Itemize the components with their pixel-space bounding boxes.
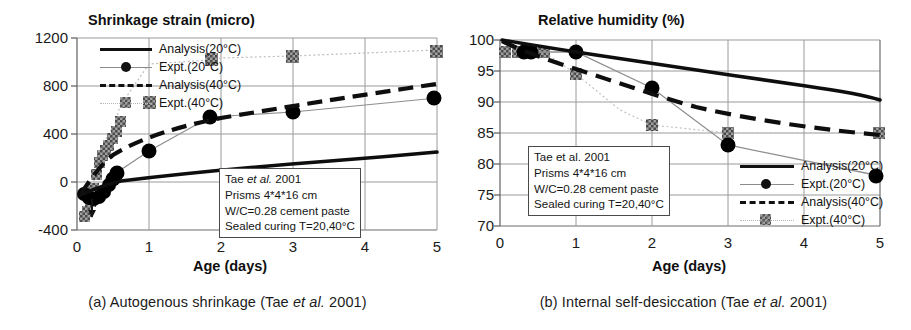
legend-item-analysis-40c: Analysis(40°C) [98, 76, 241, 94]
info-line-prisms: Prisms 4*4*16 cm [225, 187, 355, 203]
legend-item-expt-40c: Expt.(40°C) [738, 211, 883, 229]
info-line-curing: Sealed curing T=20,40°C [534, 196, 664, 212]
chart-a-caption: (a) Autogenous shrinkage (Tae et al. 200… [0, 294, 455, 310]
legend-key-solid-line-icon [98, 41, 154, 57]
legend-item-expt-20c: Expt.(20°C) [98, 58, 241, 76]
legend-key-dashed-line-icon [98, 77, 154, 93]
chart-b-xtick-4: 4 [784, 234, 824, 251]
legend-key-solid-line-icon [738, 158, 796, 174]
chart-b-xtick-5: 5 [860, 234, 900, 251]
chart-a-x-axis-title: Age (days) [193, 258, 267, 274]
chart-a-info-box: Tae et al. 2001 Prisms 4*4*16 cm W/C=0.2… [219, 168, 361, 238]
chart-a-y-axis-title: Shrinkage strain (micro) [88, 12, 255, 28]
legend-key-dashed-line-icon [738, 194, 796, 210]
legend-key-circle-marker-icon [98, 59, 154, 75]
info-line-reference: Tae et al. 2001 [225, 171, 355, 187]
legend-key-circle-marker-icon [738, 176, 796, 192]
panel-autogenous-shrinkage: Shrinkage strain (micro) Age (days) 1200… [0, 0, 455, 330]
chart-b-legend: Analysis(20°C) Expt.(20°C) Analysis(40°C… [738, 157, 883, 229]
legend-key-hatched-square-icon [98, 95, 154, 111]
info-line-curing: Sealed curing T=20,40°C [225, 218, 355, 234]
chart-b-ytick-80: 80 [452, 155, 494, 172]
chart-b-caption: (b) Internal self-desiccation (Tae et al… [456, 294, 911, 310]
chart-a-ytick-400: 400 [8, 125, 68, 142]
info-line-prisms: Prisms 4*4*16 cm [534, 165, 664, 181]
chart-b-info-box: Tae et al. 2001 Prisms 4*4*16 cm W/C=0.2… [528, 146, 670, 216]
legend-label-expt-40c: Expt.(40°C) [801, 214, 865, 227]
series-expt-40c-b [499, 46, 885, 139]
info-line-wc-ratio: W/C=0.28 cement paste [225, 203, 355, 219]
chart-b-ytick-95: 95 [452, 62, 494, 79]
chart-a-xtick-0: 0 [57, 238, 97, 255]
figure-container: Shrinkage strain (micro) Age (days) 1200… [0, 0, 911, 330]
legend-label-expt-20c: Expt.(20°C) [801, 178, 865, 191]
chart-a-ytick-0: 0 [8, 173, 68, 190]
chart-b-xtick-2: 2 [632, 234, 672, 251]
chart-b-xtick-1: 1 [556, 234, 596, 251]
legend-label-analysis-40c: Analysis(40°C) [801, 196, 883, 209]
chart-b-ytick-85: 85 [452, 124, 494, 141]
chart-b-y-axis-title: Relative humidity (%) [538, 12, 685, 28]
chart-a-ytick-1200: 1200 [8, 29, 68, 46]
legend-label-analysis-40c: Analysis(40°C) [159, 79, 241, 92]
legend-label-expt-40c: Expt.(40°C) [159, 97, 223, 110]
chart-a-ytick-800: 800 [8, 77, 68, 94]
series-analysis-20c-b [502, 40, 880, 100]
chart-b-ytick-75: 75 [452, 186, 494, 203]
legend-item-analysis-40c: Analysis(40°C) [738, 193, 883, 211]
chart-b-ytick-70: 70 [452, 217, 494, 234]
chart-a-xtick-4: 4 [345, 238, 385, 255]
panel-internal-self-desiccation: Relative humidity (%) Age (days) 100 95 … [456, 0, 911, 330]
legend-label-analysis-20c: Analysis(20°C) [801, 160, 883, 173]
info-line-reference: Tae et al. 2001 [534, 149, 664, 165]
legend-item-expt-20c: Expt.(20°C) [738, 175, 883, 193]
legend-label-analysis-20c: Analysis(20°C) [159, 43, 241, 56]
legend-key-hatched-square-icon [738, 212, 796, 228]
chart-b-ytick-100: 100 [452, 31, 494, 48]
chart-a-xtick-3: 3 [273, 238, 313, 255]
chart-a-legend: Analysis(20°C) Expt.(20°C) Analysis(40°C… [98, 40, 241, 112]
chart-b-plot [456, 0, 911, 290]
legend-item-analysis-20c: Analysis(20°C) [98, 40, 241, 58]
chart-a-xtick-2: 2 [201, 238, 241, 255]
chart-a-xtick-1: 1 [129, 238, 169, 255]
chart-a-xtick-5: 5 [417, 238, 457, 255]
chart-b-ytick-90: 90 [452, 93, 494, 110]
chart-b-x-axis-title: Age (days) [652, 258, 726, 274]
chart-b-xtick-3: 3 [708, 234, 748, 251]
legend-item-expt-40c: Expt.(40°C) [98, 94, 241, 112]
chart-b-xtick-0: 0 [480, 234, 520, 251]
legend-item-analysis-20c: Analysis(20°C) [738, 157, 883, 175]
legend-label-expt-20c: Expt.(20°C) [159, 61, 223, 74]
info-line-wc-ratio: W/C=0.28 cement paste [534, 181, 664, 197]
chart-a-ytick-neg400: -400 [8, 221, 68, 238]
